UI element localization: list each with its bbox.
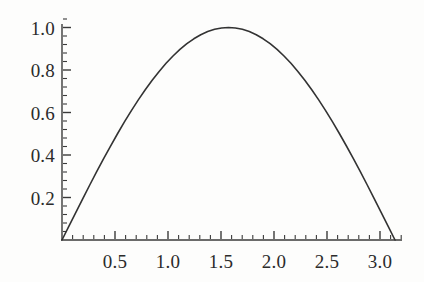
x-axis-tick-label: 1.5 [209, 252, 233, 271]
x-axis-tick-label: 3.0 [368, 252, 392, 271]
y-axis-tick-label: 1.0 [31, 18, 55, 37]
plot-figure: 0.20.40.60.81.0 0.51.01.52.02.53.0 [0, 0, 424, 282]
plot-canvas [0, 0, 424, 282]
data-series-sine-curve [62, 28, 395, 241]
axes-group [61, 24, 402, 240]
x-axis-tick-label: 1.0 [156, 252, 180, 271]
y-axis-tick-label: 0.8 [31, 61, 55, 80]
x-axis-tick-label: 0.5 [103, 252, 127, 271]
x-ticks-group [73, 231, 402, 239]
y-ticks-group [63, 19, 71, 232]
y-axis-tick-label: 0.6 [31, 103, 55, 122]
y-axis-tick-label: 0.2 [31, 188, 55, 207]
y-axis-tick-label: 0.4 [31, 146, 55, 165]
x-axis-tick-label: 2.5 [315, 252, 339, 271]
x-axis-tick-label: 2.0 [262, 252, 286, 271]
